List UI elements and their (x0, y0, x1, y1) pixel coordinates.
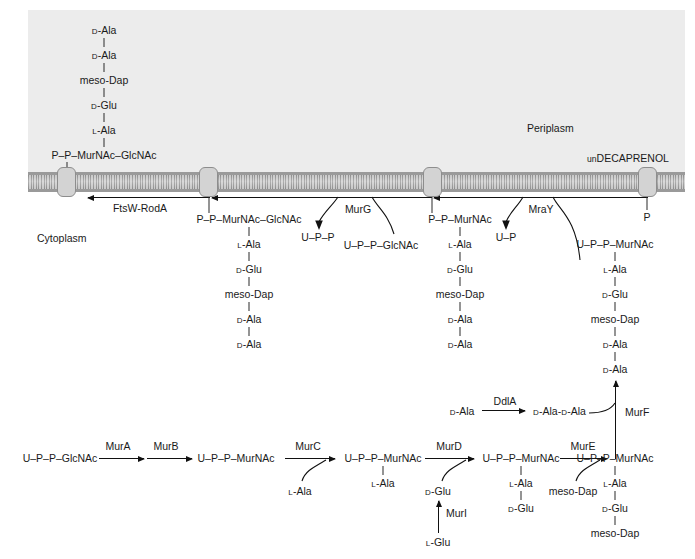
park-chain-head: U–P–P–MurNAc (576, 239, 653, 250)
lipid2-chain-res-3: meso-Dap (225, 289, 273, 300)
murg-substrate-curve (370, 196, 430, 238)
undecaprenol-label: unDECAPRENOL (587, 152, 669, 164)
park-chain-res-2: D-Glu (602, 289, 628, 300)
murc-label: MurC (295, 441, 321, 452)
lipid1-chain-res-1: L-Ala (448, 239, 471, 250)
murb-arrow (147, 458, 192, 459)
murg-label: MurG (345, 204, 371, 215)
periplasm-label: Periplasm (527, 122, 574, 134)
mray-arrow (434, 197, 648, 198)
park-chain-res-4: D-Ala (603, 339, 628, 350)
ftsw-roda-label: FtsW-RodA (113, 203, 167, 214)
murc-substrate-l-ala: L-Ala (288, 486, 311, 497)
chain-stem (249, 277, 250, 286)
murg-arrow (212, 197, 432, 198)
mray-label: MraY (528, 204, 553, 215)
membrane-protein-ftsw-roda (57, 167, 76, 197)
murd-substrate-curve (440, 459, 470, 483)
chain-stem (249, 327, 250, 336)
periplasm-chain-res-1: L-Ala (92, 125, 115, 136)
ddla-product: D-Ala-D-Ala (533, 406, 586, 417)
ddla-substrate: D-Ala (450, 406, 475, 417)
row-start-upp-glcnac: U–P–P–GlcNAc (23, 453, 98, 464)
murd-substrate-d-glu: D-Glu (425, 486, 451, 497)
murf-product-res-1: L-Ala (603, 478, 626, 489)
chain-stem (615, 277, 616, 286)
murc-product-head: U–P–P–MurNAc (344, 453, 421, 464)
mura-label: MurA (105, 441, 130, 452)
periplasm-chain-res-5: D-Ala (92, 25, 117, 36)
chain-stem (104, 38, 105, 47)
chain-stem (521, 491, 522, 500)
chain-stem (615, 302, 616, 311)
chain-stem (521, 466, 522, 475)
mray-release-curve (497, 196, 552, 236)
chain-stem (615, 466, 616, 475)
chain-stem (383, 466, 384, 475)
chain-stem (249, 252, 250, 261)
periplasm-chain-res-4: D-Ala (92, 50, 117, 61)
lipid2-chain-head: P–P–MurNAc–GlcNAc (196, 214, 301, 225)
murb-label: MurB (153, 441, 178, 452)
chain-stem (460, 302, 461, 311)
cell-membrane (28, 172, 685, 192)
lipid1-chain-res-3: meso-Dap (436, 289, 484, 300)
chain-stem (615, 327, 616, 336)
murf-product-res-2: D-Glu (602, 503, 628, 514)
murb-product-upp-murnac: U–P–P–MurNAc (197, 453, 274, 464)
murf-product-head: U–P–P–MurNAc (576, 453, 653, 464)
periplasm-chain-res-2: D-Glu (91, 100, 117, 111)
chain-stem (104, 88, 105, 97)
chain-stem (460, 327, 461, 336)
lipid2-chain-res-4: D-Ala (237, 314, 262, 325)
murc-product-res-1: L-Ala (371, 478, 394, 489)
lipid1-chain-res-2: D-Glu (447, 264, 473, 275)
ddla-arrow (482, 410, 525, 411)
periplasm-chain-res-3: meso-Dap (80, 75, 128, 86)
lipid2-chain-res-1: L-Ala (237, 239, 260, 250)
chain-stem (615, 516, 616, 525)
murf-arrow (615, 381, 616, 459)
undecaprenol-prefix: un (587, 154, 597, 164)
undecaprenol-phosphate: P (643, 212, 650, 223)
lipid1-chain-res-4: D-Ala (448, 314, 473, 325)
park-chain-res-1: L-Ala (603, 264, 626, 275)
ftsw-roda-arrow (88, 197, 210, 198)
chain-stem (249, 302, 250, 311)
lipid2-chain-res-5: D-Ala (237, 339, 262, 350)
murf-substrate-curve (588, 402, 622, 424)
undecaprenol-main: DECAPRENOL (597, 152, 669, 164)
chain-stem (104, 63, 105, 72)
mray-product-up: U–P (496, 232, 516, 243)
chain-stem (104, 113, 105, 122)
murf-label: MurF (625, 407, 650, 418)
chain-stem (615, 352, 616, 361)
periplasm-chain-head: P–P–MurNAc–GlcNAc (51, 150, 156, 161)
cytoplasm-label: Cytoplasm (37, 232, 87, 244)
murg-release-curve (310, 196, 370, 236)
murc-substrate-curve (300, 459, 330, 483)
chain-stem (615, 252, 616, 261)
membrane-highlight (28, 175, 685, 189)
park-chain-res-5: D-Ala (603, 364, 628, 375)
lipid1-chain-head: P–P–MurNAc (428, 214, 492, 225)
muri-label: MurI (446, 508, 467, 519)
park-chain-res-3: meso-Dap (591, 314, 639, 325)
lipid2-chain-res-2: D-Glu (236, 264, 262, 275)
mure-label: MurE (570, 441, 595, 452)
lipid1-chain-res-5: D-Ala (448, 339, 473, 350)
murg-substrate-upp-glcnac: U–P–P–GlcNAc (344, 240, 419, 251)
murd-arrow (425, 458, 474, 459)
mura-arrow (99, 458, 144, 459)
murd-product-head: U–P–P–MurNAc (482, 453, 559, 464)
pathway-diagram: Periplasm Cytoplasm unDECAPRENOL D-Ala D… (0, 0, 695, 559)
chain-stem (460, 252, 461, 261)
murf-product-res-3: meso-Dap (591, 528, 639, 539)
membrane-protein-mray-site (638, 167, 657, 197)
muri-arrow (438, 501, 439, 533)
chain-stem (249, 227, 250, 236)
murg-product-upp: U–P–P (301, 232, 334, 243)
membrane-protein-flippase (199, 167, 218, 197)
chain-stem (615, 491, 616, 500)
chain-stem (104, 138, 105, 147)
